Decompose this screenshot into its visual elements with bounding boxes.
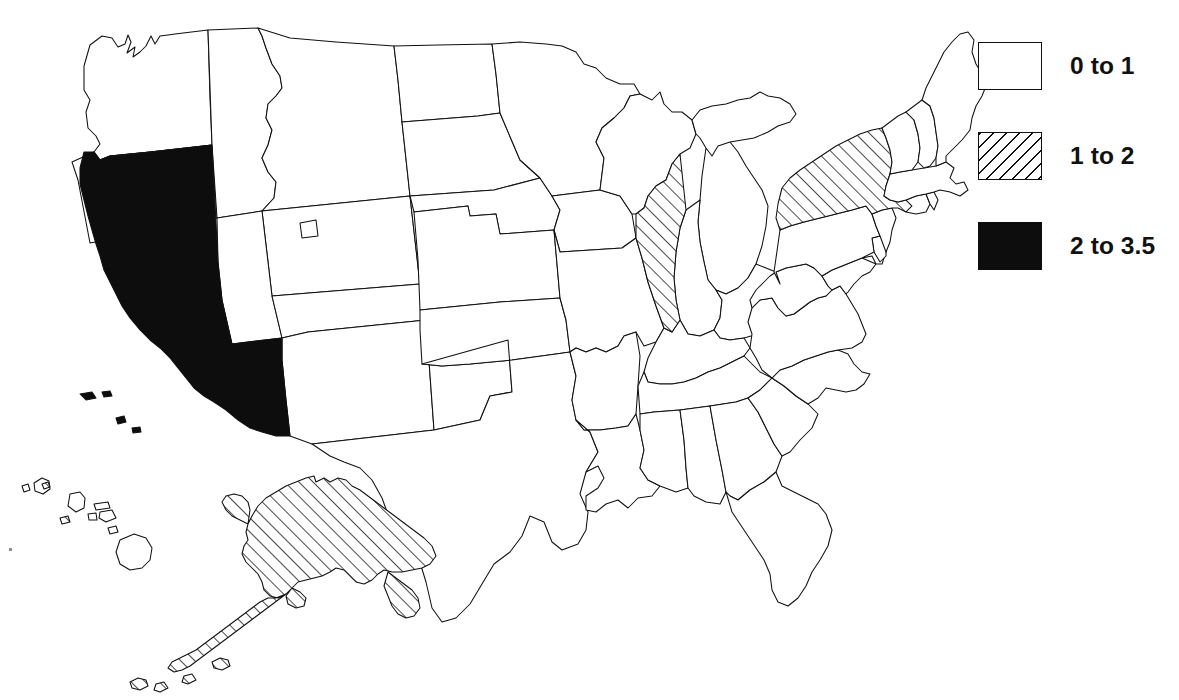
state-CA-island-4 — [132, 427, 141, 433]
map-legend: 0 to 1 1 to 2 2 to 3.5 — [978, 42, 1176, 270]
state-layer — [22, 28, 986, 692]
legend-row-2-to-3-5[interactable]: 2 to 3.5 — [978, 222, 1176, 270]
state-WA[interactable] — [84, 30, 212, 160]
legend-row-1-to-2[interactable]: 1 to 2 — [978, 132, 1176, 180]
legend-label-1-to-2: 1 to 2 — [1070, 144, 1135, 169]
state-HI-island-lanai[interactable] — [88, 513, 97, 520]
state-AZ[interactable] — [282, 320, 434, 444]
state-HI-island-oahu[interactable] — [68, 492, 85, 512]
state-MS[interactable] — [640, 410, 688, 492]
scan-artifact — [9, 548, 12, 551]
state-WY[interactable] — [262, 196, 420, 296]
state-CA-island-1 — [80, 392, 96, 400]
choropleth-figure: 0 to 1 1 to 2 2 to 3.5 — [0, 0, 1179, 700]
legend-label-0-to-1: 0 to 1 — [1070, 54, 1135, 79]
legend-label-2-to-3-5: 2 to 3.5 — [1070, 234, 1155, 259]
state-ND[interactable] — [394, 44, 500, 122]
state-HI-island-maui[interactable] — [99, 510, 116, 522]
state-HI-island-hawaii[interactable] — [116, 534, 152, 570]
state-MT[interactable] — [258, 28, 410, 211]
legend-swatch-solid — [978, 222, 1042, 270]
state-HI-island-kahoolawe[interactable] — [108, 526, 118, 534]
state-CA-island-2 — [102, 391, 112, 397]
state-HI-island-niihau[interactable] — [22, 484, 30, 492]
state-HI-island-molokai[interactable] — [94, 502, 110, 510]
state-AK-aleutian-2 — [42, 482, 50, 489]
legend-row-0-to-1[interactable]: 0 to 1 — [978, 42, 1176, 90]
legend-swatch-hatch — [978, 132, 1042, 180]
state-CA-island-3 — [116, 416, 126, 424]
legend-swatch-none — [978, 42, 1042, 90]
state-AK-aleutian-1 — [60, 516, 70, 524]
